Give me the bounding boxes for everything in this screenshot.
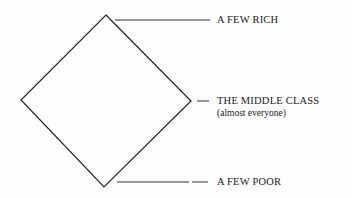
label-few-poor: A FEW POOR	[217, 176, 281, 187]
label-middle-class-sub: (almost everyone)	[217, 108, 286, 118]
class-structure-diagram: A FEW RICH THE MIDDLE CLASS (almost ever…	[0, 0, 352, 198]
diamond-shape	[21, 15, 191, 187]
label-few-rich: A FEW RICH	[217, 14, 278, 25]
label-middle-class: THE MIDDLE CLASS	[217, 95, 319, 106]
